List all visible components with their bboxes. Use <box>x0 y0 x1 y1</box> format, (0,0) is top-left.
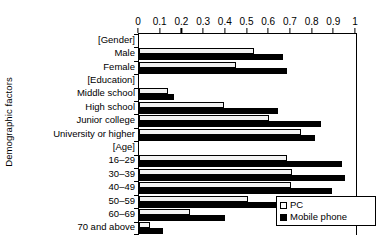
x-axis-tick-label: 0.8 <box>305 16 319 27</box>
y-axis-tick <box>134 234 139 235</box>
filled-square-icon <box>280 214 287 221</box>
x-axis-tick-label: 0.6 <box>261 16 275 27</box>
y-axis-tick-label: Middle school <box>77 88 135 98</box>
bar-mobile-phone <box>139 215 225 221</box>
y-axis-tick-label: 70 and above <box>77 222 135 232</box>
chart-legend: PC Mobile phone <box>276 196 376 226</box>
y-axis-tick-label: [Age] <box>113 142 135 152</box>
bar-mobile-phone <box>139 161 342 167</box>
y-axis-tick-label: High school <box>85 102 135 112</box>
bar-mobile-phone <box>139 188 332 194</box>
legend-item-mobile-phone: Mobile phone <box>280 211 372 223</box>
bar-mobile-phone <box>139 175 345 181</box>
bar-mobile-phone <box>139 94 174 100</box>
y-axis-tick-label: 16–29 <box>109 155 135 165</box>
bar-mobile-phone <box>139 54 283 60</box>
y-axis-tick <box>134 34 139 35</box>
bar-mobile-phone <box>139 68 287 74</box>
bar-mobile-phone <box>139 108 278 114</box>
y-axis-tick-label: [Gender] <box>98 35 135 45</box>
y-axis-tick-label: [Education] <box>87 75 135 85</box>
bar-mobile-phone <box>139 135 315 141</box>
y-axis-tick-labels: [Gender]MaleFemale[Education]Middle scho… <box>14 33 138 234</box>
legend-item-pc-label: PC <box>290 199 303 211</box>
y-axis-tick-label: Junior college <box>76 115 135 125</box>
bar-mobile-phone <box>139 228 163 234</box>
x-axis-tick-label: 0.1 <box>153 16 167 27</box>
bar-mobile-phone <box>139 121 321 127</box>
x-axis-tick-label: 0.3 <box>196 16 210 27</box>
open-square-icon <box>280 202 287 209</box>
y-axis-tick <box>134 141 139 142</box>
x-axis-tick-label: 1 <box>352 16 358 27</box>
y-axis-tick <box>134 74 139 75</box>
chart-figure: Demographic factors [Gender]MaleFemale[E… <box>0 0 382 244</box>
x-axis-tick-label: 0.9 <box>326 16 340 27</box>
x-axis-tick-label: 0 <box>135 16 141 27</box>
x-axis-tick-label: 0.7 <box>283 16 297 27</box>
x-axis-tick-label: 0.4 <box>218 16 232 27</box>
y-axis-tick-label: 60–69 <box>109 209 135 219</box>
legend-item-mobile-phone-label: Mobile phone <box>290 211 347 223</box>
x-axis-tick-label: 0.5 <box>240 16 254 27</box>
y-axis-tick-label: 30–39 <box>109 169 135 179</box>
y-axis-tick-label: Male <box>114 48 135 58</box>
x-axis-tick-label: 0.2 <box>174 16 188 27</box>
y-axis-tick-label: 50–59 <box>109 196 135 206</box>
legend-item-pc: PC <box>280 199 372 211</box>
y-axis-tick-label: 40–49 <box>109 182 135 192</box>
y-axis-tick-label: Female <box>103 62 135 72</box>
x-axis: 00.10.20.30.40.50.60.70.80.91 <box>138 12 355 33</box>
y-axis-title-text: Demographic factors <box>3 77 14 167</box>
y-axis-tick-label: University or higher <box>53 129 135 139</box>
